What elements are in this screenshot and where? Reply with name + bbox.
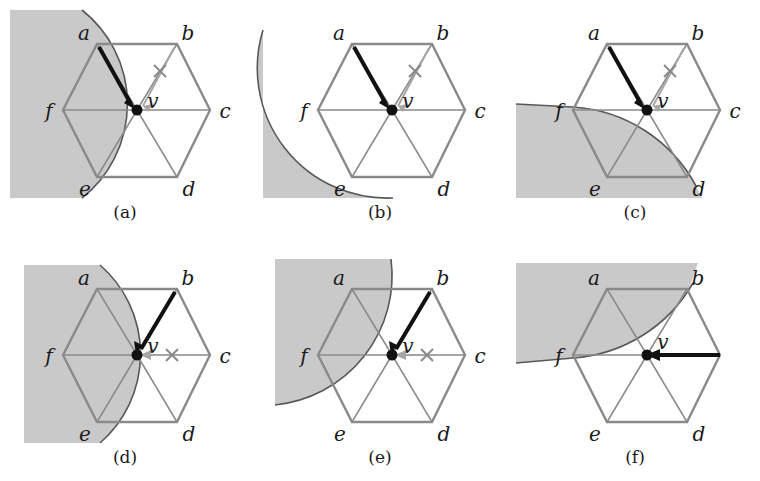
vertex-label-d: d	[183, 422, 196, 445]
vertex-label-b: b	[182, 266, 195, 290]
panel-a-diagram: a b c d e f v	[0, 0, 250, 200]
panel-e-diagram: a b c d e f v	[255, 245, 505, 445]
center-vertex-dot	[387, 105, 398, 116]
vertex-label-b: b	[437, 21, 450, 45]
panel-f-diagram: a b d e f v	[510, 245, 760, 445]
center-label-v: v	[147, 89, 159, 113]
center-label-v: v	[657, 330, 669, 354]
vertex-label-b: b	[692, 21, 705, 45]
vertex-label-c: c	[219, 99, 230, 123]
vertex-label-e: e	[589, 177, 601, 200]
center-vertex-dot	[132, 105, 143, 116]
vertex-label-d: d	[438, 177, 451, 200]
vertex-label-e: e	[79, 422, 91, 445]
vertex-label-b: b	[692, 266, 705, 290]
vertex-label-d: d	[438, 422, 451, 445]
center-vertex-dot	[642, 105, 653, 116]
center-label-v: v	[402, 89, 414, 113]
figure-six-hexagon-panels: a b c d e f v (a)	[0, 0, 760, 481]
panel-e: a b c d e f v (e)	[255, 245, 505, 481]
vertex-label-b: b	[182, 21, 195, 45]
vertex-label-e: e	[334, 177, 346, 200]
panel-b: a b c d e f v (b)	[255, 0, 505, 230]
panel-c-diagram: a b c d e f v	[510, 0, 760, 200]
vertex-label-d: d	[183, 177, 196, 200]
vertex-label-c: c	[219, 344, 230, 368]
panel-c: a b c d e f v (c)	[510, 0, 760, 230]
vertex-label-b: b	[437, 266, 450, 290]
vertex-label-a: a	[78, 21, 90, 45]
vertex-label-a: a	[588, 21, 600, 45]
panel-b-diagram: a b c d e f v	[255, 0, 505, 200]
panel-a: a b c d e f v (a)	[0, 0, 250, 230]
shaded-region	[10, 10, 127, 198]
center-vertex-dot	[132, 350, 143, 361]
panel-caption: (d)	[0, 447, 250, 467]
panel-d-diagram: a b c d e f v	[0, 245, 250, 445]
panel-caption: (e)	[255, 447, 505, 467]
vertex-label-a: a	[78, 266, 90, 290]
shaded-region	[516, 104, 702, 198]
center-label-v: v	[402, 334, 414, 358]
vertex-label-a: a	[333, 266, 345, 290]
center-vertex-dot	[387, 350, 398, 361]
vertex-label-e: e	[589, 422, 601, 445]
vertex-label-c: c	[729, 99, 740, 123]
center-label-v: v	[147, 334, 159, 358]
vertex-label-a: a	[333, 21, 345, 45]
panel-caption: (b)	[255, 202, 505, 222]
center-vertex-dot	[642, 350, 653, 361]
bold-arrow-a-to-v	[609, 47, 646, 110]
vertex-label-d: d	[693, 177, 706, 200]
bold-arrow-a-to-v	[354, 47, 391, 110]
panel-f: a b d e f v (f)	[510, 245, 760, 481]
center-label-v: v	[657, 89, 669, 113]
vertex-label-e: e	[79, 177, 91, 200]
vertex-label-c: c	[474, 99, 485, 123]
panel-caption: (c)	[510, 202, 760, 222]
vertex-label-e: e	[334, 422, 346, 445]
panel-d: a b c d e f v (d)	[0, 245, 250, 481]
panel-caption: (f)	[510, 447, 760, 467]
vertex-label-f: f	[298, 99, 311, 123]
vertex-label-c: c	[474, 344, 485, 368]
vertex-label-a: a	[588, 266, 600, 290]
panel-caption: (a)	[0, 202, 250, 222]
shaded-region	[257, 30, 393, 198]
vertex-label-d: d	[693, 422, 706, 445]
